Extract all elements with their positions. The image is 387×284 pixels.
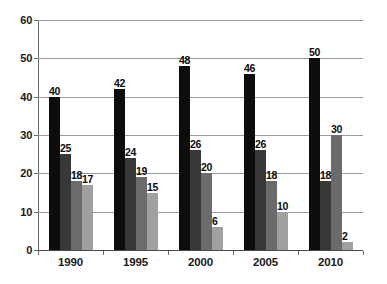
bar-2005-series3 <box>266 181 277 250</box>
bar-value-label: 17 <box>82 174 93 185</box>
bar-value-label: 19 <box>136 166 147 177</box>
bar-value-label: 26 <box>255 139 266 150</box>
x-tick-2005 <box>298 251 299 255</box>
bar-2010-series1 <box>309 58 320 250</box>
x-axis-label-2000: 2000 <box>168 256 233 268</box>
x-tick-2000 <box>233 251 234 255</box>
bar-value-label: 25 <box>60 143 71 154</box>
bar-1990-series3 <box>71 181 82 250</box>
bar-2010-series3 <box>331 135 342 250</box>
bar-value-label: 24 <box>125 147 136 158</box>
y-axis-label-40: 40 <box>2 91 32 103</box>
bar-2005-series2 <box>255 150 266 250</box>
bar-value-label: 42 <box>114 78 125 89</box>
bar-1990-series4 <box>82 185 93 250</box>
bar-2005-series4 <box>277 212 288 250</box>
bar-value-label: 6 <box>212 216 217 227</box>
y-tick-20 <box>34 173 38 174</box>
x-axis-label-2005: 2005 <box>233 256 298 268</box>
bar-1995-series1 <box>114 89 125 250</box>
bar-value-label: 40 <box>49 86 60 97</box>
bar-value-label: 18 <box>71 170 82 181</box>
y-tick-10 <box>34 212 38 213</box>
bar-value-label: 30 <box>331 124 342 135</box>
plot-area: 40251817422419154826206462618105018302 <box>38 20 363 250</box>
bar-1995-series3 <box>136 177 147 250</box>
bar-value-label: 48 <box>179 55 190 66</box>
y-axis-label-10: 10 <box>2 206 32 218</box>
bar-1990-series2 <box>60 154 71 250</box>
bar-1995-series2 <box>125 158 136 250</box>
y-axis-label-50: 50 <box>2 52 32 64</box>
bar-value-label: 2 <box>342 231 347 242</box>
bar-value-label: 20 <box>201 162 212 173</box>
y-tick-50 <box>34 58 38 59</box>
x-axis-label-1990: 1990 <box>38 256 103 268</box>
y-tick-60 <box>34 20 38 21</box>
y-axis-label-30: 30 <box>2 129 32 141</box>
x-axis-label-1995: 1995 <box>103 256 168 268</box>
bar-value-label: 10 <box>277 201 288 212</box>
bar-1995-series4 <box>147 193 158 251</box>
bar-2000-series4 <box>212 227 223 250</box>
bar-2000-series2 <box>190 150 201 250</box>
y-axis-label-0: 0 <box>2 244 32 256</box>
bar-1990-series1 <box>49 97 60 250</box>
gridline-60 <box>38 20 363 21</box>
y-axis-label-20: 20 <box>2 167 32 179</box>
bar-2010-series4 <box>342 242 353 250</box>
gridline-0 <box>38 250 363 251</box>
y-axis-label-60: 60 <box>2 14 32 26</box>
y-tick-40 <box>34 97 38 98</box>
bar-value-label: 46 <box>244 63 255 74</box>
x-tick-origin <box>38 251 39 255</box>
bar-value-label: 15 <box>147 182 158 193</box>
bar-value-label: 50 <box>309 47 320 58</box>
bar-value-label: 26 <box>190 139 201 150</box>
x-tick-1990 <box>103 251 104 255</box>
bar-2010-series2 <box>320 181 331 250</box>
x-axis-label-2010: 2010 <box>298 256 363 268</box>
y-tick-30 <box>34 135 38 136</box>
bar-2000-series1 <box>179 66 190 250</box>
bar-2005-series1 <box>244 74 255 250</box>
x-tick-1995 <box>168 251 169 255</box>
bar-2000-series3 <box>201 173 212 250</box>
x-tick-2010 <box>363 251 364 255</box>
bar-chart: 40251817422419154826206462618105018302 0… <box>0 0 387 284</box>
bar-value-label: 18 <box>266 170 277 181</box>
bar-value-label: 18 <box>320 170 331 181</box>
